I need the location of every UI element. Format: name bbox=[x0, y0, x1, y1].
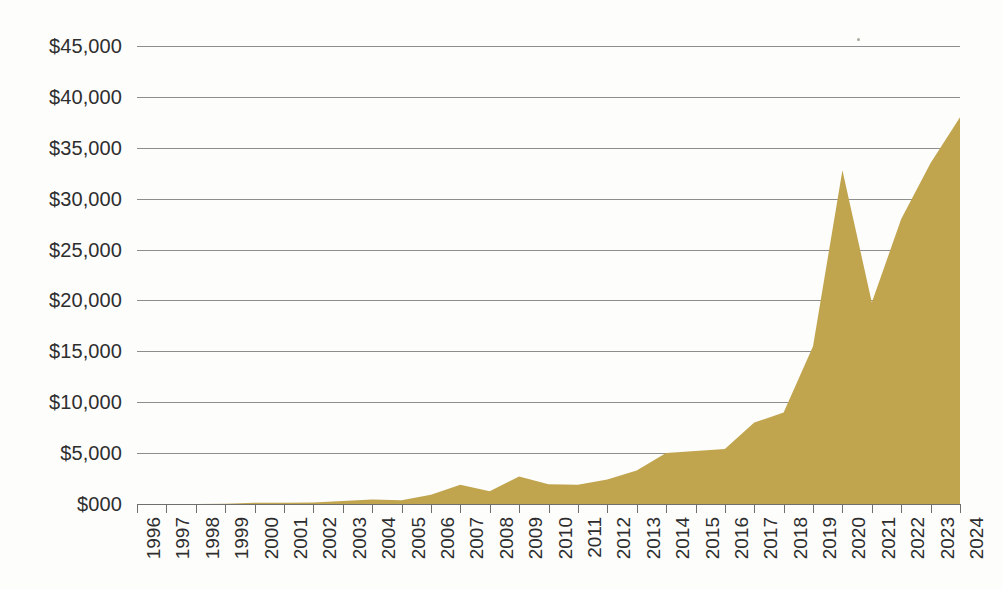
x-tick-mark bbox=[196, 504, 197, 513]
x-tick-label-2023: 2023 bbox=[938, 517, 957, 559]
plot-area bbox=[137, 46, 960, 504]
x-tick-mark bbox=[519, 504, 520, 513]
x-tick-label-2022: 2022 bbox=[908, 517, 927, 559]
x-tick-mark bbox=[754, 504, 755, 513]
y-tick-label: $25,000 bbox=[49, 238, 122, 261]
x-tick-label-2008: 2008 bbox=[497, 517, 516, 559]
x-tick-mark bbox=[842, 504, 843, 513]
x-tick-label-2009: 2009 bbox=[526, 517, 545, 559]
x-tick-label-2021: 2021 bbox=[879, 517, 898, 559]
x-tick-label-2024: 2024 bbox=[967, 517, 986, 559]
area-fill bbox=[137, 117, 960, 504]
y-tick-label: $10,000 bbox=[49, 391, 122, 414]
x-tick-label-2015: 2015 bbox=[703, 517, 722, 559]
x-tick-label-2012: 2012 bbox=[614, 517, 633, 559]
y-tick-label: $5,000 bbox=[60, 442, 122, 465]
x-tick-label-2018: 2018 bbox=[791, 517, 810, 559]
x-tick-label-2010: 2010 bbox=[556, 517, 575, 559]
x-tick-mark bbox=[813, 504, 814, 513]
x-tick-label-2000: 2000 bbox=[262, 517, 281, 559]
x-tick-mark bbox=[578, 504, 579, 513]
x-tick-label-1997: 1997 bbox=[173, 517, 192, 559]
x-tick-mark bbox=[225, 504, 226, 513]
x-tick-label-2007: 2007 bbox=[467, 517, 486, 559]
x-tick-label-2002: 2002 bbox=[320, 517, 339, 559]
y-tick-label: $30,000 bbox=[49, 187, 122, 210]
y-tick-label: $20,000 bbox=[49, 289, 122, 312]
area-chart: $45,000$40,000$35,000$30,000$25,000$20,0… bbox=[0, 0, 1002, 590]
y-axis: $45,000$40,000$35,000$30,000$25,000$20,0… bbox=[0, 0, 130, 590]
x-tick-label-2004: 2004 bbox=[379, 517, 398, 559]
x-tick-mark bbox=[490, 504, 491, 513]
x-tick-mark bbox=[431, 504, 432, 513]
x-tick-label-2016: 2016 bbox=[732, 517, 751, 559]
x-tick-label-2019: 2019 bbox=[820, 517, 839, 559]
area-series bbox=[137, 46, 960, 504]
x-tick-mark bbox=[901, 504, 902, 513]
x-tick-mark bbox=[960, 504, 961, 513]
x-tick-mark bbox=[784, 504, 785, 513]
x-tick-label-2017: 2017 bbox=[761, 517, 780, 559]
x-tick-mark bbox=[872, 504, 873, 513]
x-tick-label-1998: 1998 bbox=[203, 517, 222, 559]
x-tick-mark bbox=[725, 504, 726, 513]
x-tick-label-2013: 2013 bbox=[644, 517, 663, 559]
y-tick-label: $15,000 bbox=[49, 340, 122, 363]
x-tick-mark bbox=[607, 504, 608, 513]
x-tick-mark bbox=[372, 504, 373, 513]
x-tick-mark bbox=[137, 504, 138, 513]
x-tick-label-1999: 1999 bbox=[232, 517, 251, 559]
x-tick-label-2006: 2006 bbox=[438, 517, 457, 559]
y-tick-label: $40,000 bbox=[49, 85, 122, 108]
y-tick-label: $35,000 bbox=[49, 136, 122, 159]
y-tick-label: $45,000 bbox=[49, 35, 122, 58]
x-tick-mark bbox=[166, 504, 167, 513]
x-tick-mark bbox=[931, 504, 932, 513]
x-tick-mark bbox=[460, 504, 461, 513]
x-tick-label-2003: 2003 bbox=[350, 517, 369, 559]
x-tick-mark bbox=[637, 504, 638, 513]
x-axis: 1996199719981999200020012002200320042005… bbox=[137, 504, 960, 590]
x-tick-label-2014: 2014 bbox=[673, 517, 692, 559]
x-tick-label-2020: 2020 bbox=[849, 517, 868, 559]
x-tick-mark bbox=[549, 504, 550, 513]
x-tick-mark bbox=[343, 504, 344, 513]
x-tick-mark bbox=[402, 504, 403, 513]
x-tick-label-2005: 2005 bbox=[409, 517, 428, 559]
x-tick-mark bbox=[313, 504, 314, 513]
x-tick-mark bbox=[255, 504, 256, 513]
x-tick-label-1996: 1996 bbox=[144, 517, 163, 559]
x-tick-mark bbox=[284, 504, 285, 513]
x-tick-label-2001: 2001 bbox=[291, 517, 310, 559]
x-tick-label-2011: 2011 bbox=[585, 517, 604, 558]
scan-speck bbox=[857, 38, 860, 41]
x-tick-mark bbox=[696, 504, 697, 513]
y-tick-label: $000 bbox=[77, 493, 122, 516]
x-tick-mark bbox=[666, 504, 667, 513]
